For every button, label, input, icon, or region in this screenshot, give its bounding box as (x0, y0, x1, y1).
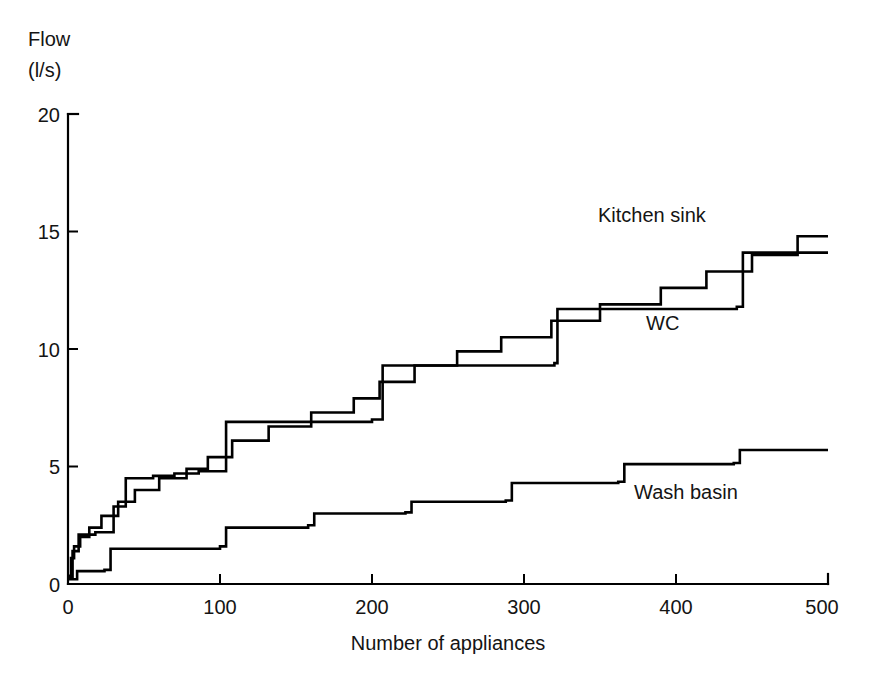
y-tick-label-10: 10 (38, 339, 60, 361)
y-axis-title-line1: Flow (28, 28, 71, 50)
series-label-wc: WC (646, 312, 679, 334)
series-path-wc (68, 253, 828, 577)
y-tick-label-0: 0 (49, 574, 60, 596)
x-tick-label-200: 200 (355, 596, 388, 618)
x-tick-label-400: 400 (659, 596, 692, 618)
y-tick-label-20: 20 (38, 104, 60, 126)
y-axis-title-line2: (l/s) (28, 59, 61, 81)
x-tick-group (68, 574, 828, 584)
series-path-wash-basin (68, 450, 828, 579)
series-group (68, 236, 828, 579)
y-tick-label-15: 15 (38, 221, 60, 243)
series-path-kitchen-sink (68, 236, 828, 576)
x-axis-title: Number of appliances (351, 632, 546, 654)
series-labels: Kitchen sink WC Wash basin (598, 204, 738, 503)
axis-group (68, 114, 828, 584)
series-label-wash-basin: Wash basin (634, 481, 738, 503)
x-tick-label-100: 100 (203, 596, 236, 618)
x-tick-label-300: 300 (507, 596, 540, 618)
chart-svg: Flow (l/s) 0 5 10 15 20 (0, 0, 882, 684)
flow-vs-appliances-chart: Flow (l/s) 0 5 10 15 20 (0, 0, 882, 684)
x-tick-label-0: 0 (62, 596, 73, 618)
y-tick-labels: 0 5 10 15 20 (38, 104, 60, 596)
series-label-kitchen-sink: Kitchen sink (598, 204, 707, 226)
x-tick-label-500: 500 (805, 596, 838, 618)
x-tick-labels: 0 100 200 300 400 500 (62, 596, 838, 618)
y-tick-label-5: 5 (49, 456, 60, 478)
y-tick-group (68, 114, 78, 584)
